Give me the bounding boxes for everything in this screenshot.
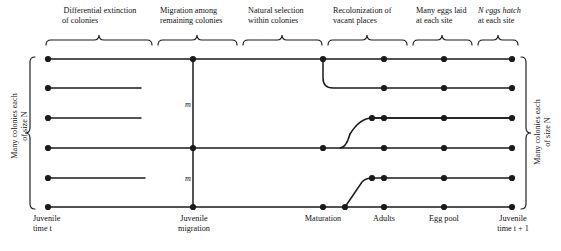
brace-natural-selection-within [243,35,322,45]
left-axis-label-line2: of size N [20,62,30,190]
phase-title-migration-among-remaining: Migration among remaining colonies [160,6,240,26]
stage-label-egg-pool: Egg pool [418,214,470,224]
stage-label-line1: Juvenile [485,214,541,224]
migration-rate-label-lower: m [185,174,191,184]
node [320,145,326,151]
node [381,115,387,121]
node [441,56,447,62]
lineage-nodes [45,56,515,210]
phase-title-recolonization-vacant: Recolonization of vacant places [333,6,415,26]
stage-label-line1: Egg pool [418,214,470,224]
node [45,145,51,151]
node [45,115,51,121]
phase-title-differential-extinction: Differential extinction of colonies [52,6,148,26]
node [441,204,447,210]
stage-label-adults: Adults [360,214,408,224]
brace-differential-extinction [46,35,152,45]
node [190,145,196,151]
phase-title-line2: within colonies [248,16,328,26]
node [45,56,51,62]
stage-label-juvenile-migration: Juvenile migration [165,214,223,234]
phase-title-line2: vacant places [333,16,415,26]
node [190,204,196,210]
brace-n-eggs-hatch [478,35,518,45]
brace-migration-among-remaining [158,35,237,45]
stage-label-line1: Juvenile [165,214,223,224]
phase-title-line2: remaining colonies [160,16,240,26]
node [441,115,447,121]
branch-row0-to-row1 [323,59,512,88]
node [381,204,387,210]
stage-label-maturation: Maturation [292,214,354,224]
phase-title-n-eggs-hatch: N eggs hatch at each site [478,6,540,26]
node [190,56,196,62]
node [342,204,348,210]
stage-label-line2: time t [33,224,93,234]
branch-row3-to-row2 [350,118,512,134]
node [320,56,326,62]
stage-label-line2: migration [165,224,223,234]
node [381,175,387,181]
node [509,56,515,62]
stage-label-juvenile-time-t: Juvenile time t [33,214,93,234]
phase-title-line1: Differential extinction [52,6,148,16]
stage-label-line1: Juvenile [33,214,93,224]
right-axis-label-line2: of size N [543,68,553,196]
side-braces [25,57,531,209]
node [45,175,51,181]
right-axis-label: Many colonies each of size N [533,68,552,196]
node [441,175,447,181]
phase-title-line2: at each site [416,16,482,26]
node [369,115,375,121]
stage-label-line1: Maturation [292,214,354,224]
phase-title-line1: Recolonization of [333,6,415,16]
phase-title-line1: Natural selection [248,6,328,16]
node [381,145,387,151]
node [509,145,515,151]
phase-title-line2: of colonies [52,16,148,26]
phase-title-line1: Many eggs laid [416,6,482,16]
branch-row5-to-row4 [345,178,372,207]
stage-label-line2: time t + 1 [485,224,541,234]
node [45,85,51,91]
node [381,56,387,62]
node [369,175,375,181]
phase-title-natural-selection-within: Natural selection within colonies [248,6,328,26]
right-axis-label-line1: Many colonies each [533,68,543,196]
figure-canvas: Differential extinction of colonies Migr… [0,0,561,251]
phase-title-line1: N eggs hatch [478,6,540,16]
node [381,85,387,91]
stage-label-juvenile-time-t-plus-1: Juvenile time t + 1 [485,214,541,234]
node [320,204,326,210]
node [45,204,51,210]
node [441,85,447,91]
branch-row3-riser [340,134,350,148]
node [509,204,515,210]
lineage-paths [48,59,512,207]
brace-many-eggs-laid [413,35,472,45]
right-brace [521,57,531,209]
phase-title-many-eggs-laid: Many eggs laid at each site [416,6,482,26]
node [509,85,515,91]
migration-rate-label-upper: m [185,100,191,110]
node [441,145,447,151]
brace-recolonization-vacant [328,35,407,45]
phase-braces [46,35,518,45]
left-axis-label-line1: Many colonies each [10,62,20,190]
phase-title-line2: at each site [478,16,540,26]
left-axis-label: Many colonies each of size N [10,62,29,190]
node [509,115,515,121]
node [509,175,515,181]
stage-label-line1: Adults [360,214,408,224]
phase-title-line1: Migration among [160,6,240,16]
